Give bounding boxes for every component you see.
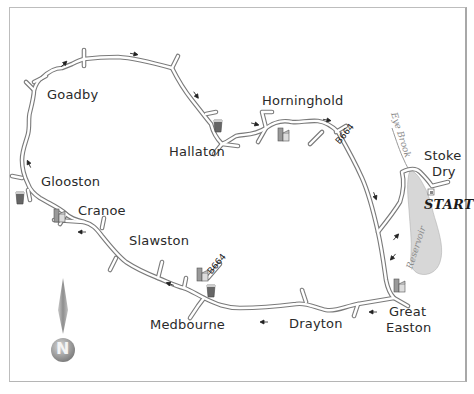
village-label-dry: Dry	[432, 164, 456, 179]
arrow-icon	[78, 230, 86, 234]
arrow-icon	[251, 121, 260, 127]
village-label-great: Great	[389, 304, 426, 319]
start-label: START	[424, 197, 474, 212]
parking-icon	[428, 189, 434, 195]
village-label-cranoe: Cranoe	[78, 203, 126, 218]
arrow-icon	[392, 233, 400, 242]
village-label-stoke: Stoke	[424, 148, 461, 163]
village-label-horninghold: Horninghold	[262, 93, 343, 108]
arrow-icon	[260, 320, 268, 324]
arrow-icon	[372, 192, 378, 201]
arrow-icon	[369, 310, 377, 314]
village-label-hallaton: Hallaton	[169, 144, 225, 159]
village-label-goadby: Goadby	[47, 87, 98, 102]
pub-icon	[214, 120, 222, 132]
village-label-drayton: Drayton	[289, 316, 343, 331]
arrow-icon	[130, 51, 139, 56]
compass-n-label: N	[56, 341, 70, 356]
village-label-easton: Easton	[386, 320, 431, 335]
church-icon	[394, 279, 405, 292]
village-label-glooston: Glooston	[41, 174, 100, 189]
village-label-medbourne: Medbourne	[150, 317, 225, 332]
village-label-slawston: Slawston	[129, 233, 189, 248]
pub-icon	[16, 192, 24, 204]
arrow-icon	[25, 160, 32, 169]
church-icon	[278, 128, 289, 141]
pub-icon	[207, 285, 215, 297]
arrow-icon	[389, 253, 397, 262]
